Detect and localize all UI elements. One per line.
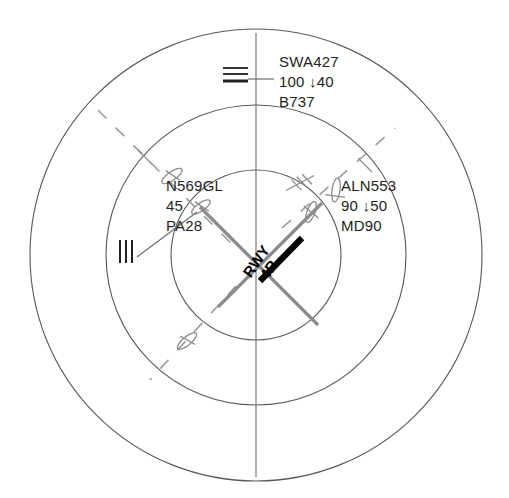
datablock-aln553-type: MD90 (341, 216, 396, 236)
datablock-swa427-type: B737 (279, 92, 339, 112)
datablock-n569gl[interactable]: N569GL 45 PA28 (166, 176, 223, 236)
course-tick-ne (358, 158, 372, 172)
datablock-swa427-callsign: SWA427 (279, 52, 339, 72)
datablock-n569gl-type: PA28 (166, 216, 223, 236)
marker-swa427-triple-bar[interactable] (223, 68, 248, 81)
datablock-aln553-altitude: 90 ↓50 (341, 196, 396, 216)
datablock-aln553[interactable]: ALN553 90 ↓50 MD90 (341, 176, 396, 236)
datablock-n569gl-altitude: 45 (166, 196, 223, 216)
aircraft-symbol-sw-outer[interactable] (173, 327, 202, 355)
datablock-swa427-altitude: 100 ↓40 (279, 72, 339, 92)
radar-scope-display[interactable]: SWA427 100 ↓40 B737 N569GL 45 PA28 ALN55… (0, 0, 509, 498)
datablock-swa427[interactable]: SWA427 100 ↓40 B737 (279, 52, 339, 112)
marker-n569gl-triple-bar[interactable] (120, 240, 132, 263)
dashed-approach-course (98, 110, 236, 380)
aircraft-symbol-multi-tick-n[interactable] (283, 169, 318, 196)
datablock-n569gl-callsign: N569GL (166, 176, 223, 196)
course-tick-nw (138, 150, 152, 164)
datablock-aln553-callsign: ALN553 (341, 176, 396, 196)
